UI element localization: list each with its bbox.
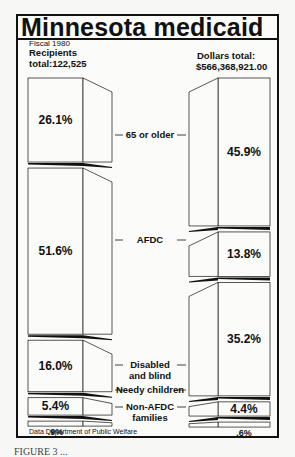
category-label-disabled-and-blind: Disabledand blind [115, 359, 186, 381]
left-value-label: 26.1% [38, 113, 72, 127]
svg-text:Disabled: Disabled [130, 359, 170, 370]
left-value-label: 51.6% [38, 244, 72, 258]
segment--or-older: 26.1% [28, 78, 112, 168]
right-value-label: 13.8% [227, 247, 261, 261]
svg-text:Non-AFDC: Non-AFDC [126, 401, 174, 412]
svg-text:65 or older: 65 or older [126, 129, 175, 140]
segment-afdc: 51.6% [28, 168, 112, 340]
segment-afdc: 13.8% [189, 232, 270, 282]
right-value-label: 35.2% [227, 332, 261, 346]
right-value-label: 45.9% [227, 145, 261, 159]
right-value-label: .6% [236, 428, 252, 438]
right-value-label: 4.4% [230, 402, 258, 416]
category-label-non-afdc-families: Non-AFDCfamilies [115, 401, 186, 423]
left-value-label: 5.4% [42, 399, 70, 413]
svg-text:AFDC: AFDC [137, 234, 164, 245]
source-note: Data Department of Public Welfare [29, 428, 137, 435]
figure-caption: FIGURE 3 ... [14, 446, 68, 457]
segment-needy-children: 4.4% [189, 402, 270, 422]
category-label-afdc: AFDC [115, 234, 186, 245]
segment-non-afdc-families: .6% [189, 422, 270, 438]
left-value-label: 16.0% [38, 359, 72, 373]
svg-text:Needy children: Needy children [116, 384, 184, 395]
segment-disabled-and-blind: 16.0% [28, 340, 112, 398]
svg-text:and blind: and blind [129, 370, 171, 381]
category-label-needy-children: Needy children [115, 384, 186, 395]
segment-disabled-and-blind: 35.2% [189, 282, 270, 401]
svg-text:families: families [132, 412, 167, 423]
segment-needy-children: 5.4% [28, 398, 112, 421]
category-label--or-older: 65 or older [115, 129, 186, 140]
segment--or-older: 45.9% [189, 78, 270, 232]
